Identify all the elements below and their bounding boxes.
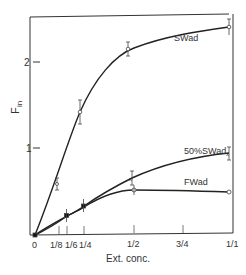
svg-text:F: F [9, 107, 21, 114]
svg-text:x: x [129, 176, 132, 182]
svg-text:3/4: 3/4 [176, 239, 189, 249]
svg-text:0: 0 [32, 240, 37, 250]
svg-text:x: x [226, 151, 229, 157]
y-tick-label-2: 2 [24, 57, 30, 68]
svg-text:1/8: 1/8 [50, 240, 63, 250]
y-tick-label-1: 1 [26, 143, 32, 154]
series-50swad-label: 50%SWad [184, 146, 226, 156]
series-fwad-line [35, 190, 229, 235]
series-fwad-label: FWad [184, 177, 208, 187]
svg-text:1/1: 1/1 [226, 239, 239, 249]
x-axis [30, 233, 233, 235]
y-ticks [33, 62, 40, 148]
svg-text:1/6: 1/6 [65, 240, 78, 250]
x-tick-labels: 0 1/8 1/6 1/4 1/2 3/4 1/1 [32, 239, 239, 250]
series-fwad-points [33, 185, 231, 237]
svg-text:in: in [15, 101, 24, 107]
x-ticks [59, 225, 183, 234]
svg-text:1/4: 1/4 [79, 240, 92, 250]
plot-frame [30, 14, 233, 235]
chart-canvas: 2 1 F in 0 1/8 1/6 1/4 1/2 3/4 1/1 Ext. … [0, 0, 246, 275]
svg-text:1/2: 1/2 [127, 239, 140, 249]
y-axis-label: F in [9, 101, 24, 114]
chart-figure: 2 1 F in 0 1/8 1/6 1/4 1/2 3/4 1/1 Ext. … [0, 0, 246, 275]
x-axis-label: Ext. conc. [106, 253, 150, 264]
series-swad-label: SWad [174, 33, 198, 43]
top-border [30, 14, 229, 17]
series-50swad-line [35, 153, 229, 235]
series-swad-line [35, 27, 229, 235]
